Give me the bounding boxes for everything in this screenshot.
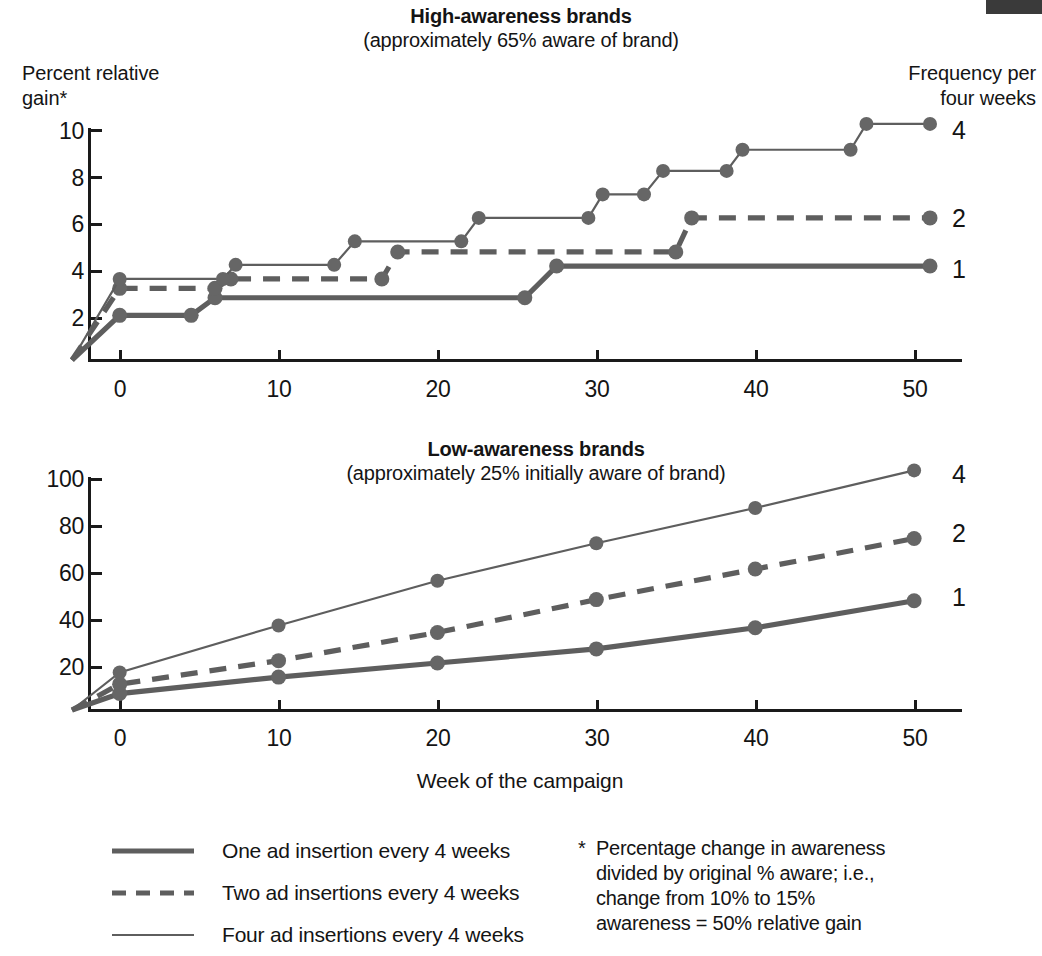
series-marker-4 [907,463,921,477]
series-marker-4 [581,211,595,225]
series-marker-4 [748,501,762,515]
series-marker-1 [923,259,938,274]
footnote: * Percentage change in awareness divided… [578,836,1008,936]
series-marker-4 [596,187,610,201]
series-marker-1 [184,308,199,323]
series-line-4 [72,124,930,360]
series-line-1 [72,601,914,710]
top-chart-axes [88,128,962,361]
series-marker-4 [430,574,444,588]
series-line-1 [72,266,930,360]
legend-label-one-ad: One ad insertion every 4 weeks [222,838,510,864]
series-marker-1 [112,308,127,323]
series-marker-4 [113,272,127,286]
series-marker-4 [216,272,230,286]
series-marker-4 [327,258,341,272]
series-marker-2 [684,210,699,225]
legend-swatch-thick-solid-line [110,841,196,861]
top-chart-plot [0,0,1042,420]
series-marker-4 [656,164,670,178]
series-marker-2 [923,210,938,225]
bottom-chart-plot [0,420,1042,740]
series-marker-4 [720,164,734,178]
legend-item: Two ad insertions every 4 weeks [110,872,550,914]
bottom-chart-series-group [72,463,922,710]
series-line-2 [72,218,930,360]
series-marker-4 [113,665,127,679]
series-marker-4 [472,211,486,225]
series-marker-1 [907,593,922,608]
series-marker-1 [589,641,604,656]
series-marker-1 [430,656,445,671]
series-marker-4 [859,117,873,131]
legend-swatch-dashed-line [110,883,196,903]
series-marker-4 [272,618,286,632]
legend-item: Four ad insertions every 4 weeks [110,914,550,956]
footnote-line1: Percentage change in awareness [596,837,885,859]
series-marker-2 [748,562,763,577]
bottom-chart-x-axis-label: Week of the campaign [330,768,710,793]
series-marker-4 [454,234,468,248]
series-marker-4 [923,117,937,131]
series-marker-4 [348,234,362,248]
series-marker-1 [517,290,532,305]
legend-swatch-thin-solid-line [110,925,196,945]
series-marker-2 [668,244,683,259]
series-marker-2 [390,244,405,259]
legend-item: One ad insertion every 4 weeks [110,830,550,872]
legend-label-four-ads: Four ad insertions every 4 weeks [222,922,524,948]
bottom-chart-axes [88,477,962,711]
top-chart-series-group [72,117,938,360]
series-marker-1 [748,620,763,635]
series-marker-1 [549,259,564,274]
series-marker-2 [907,531,922,546]
legend: One ad insertion every 4 weeks Two ad in… [110,830,550,956]
footnote-line4: awareness = 50% relative gain [596,912,862,934]
series-marker-2 [374,271,389,286]
footnote-line3: change from 10% to 15% [596,887,815,909]
series-marker-1 [271,670,286,685]
series-marker-4 [736,143,750,157]
series-marker-4 [844,143,858,157]
series-marker-2 [589,592,604,607]
legend-label-two-ads: Two ad insertions every 4 weeks [222,880,519,906]
footnote-line2: divided by original % aware; i.e., [596,862,874,884]
footnote-body: Percentage change in awareness divided b… [596,836,885,936]
series-marker-4 [229,258,243,272]
series-marker-4 [589,536,603,550]
series-line-4 [72,470,914,710]
series-marker-2 [430,625,445,640]
series-marker-2 [271,653,286,668]
series-marker-4 [637,187,651,201]
footnote-asterisk: * [578,836,596,936]
